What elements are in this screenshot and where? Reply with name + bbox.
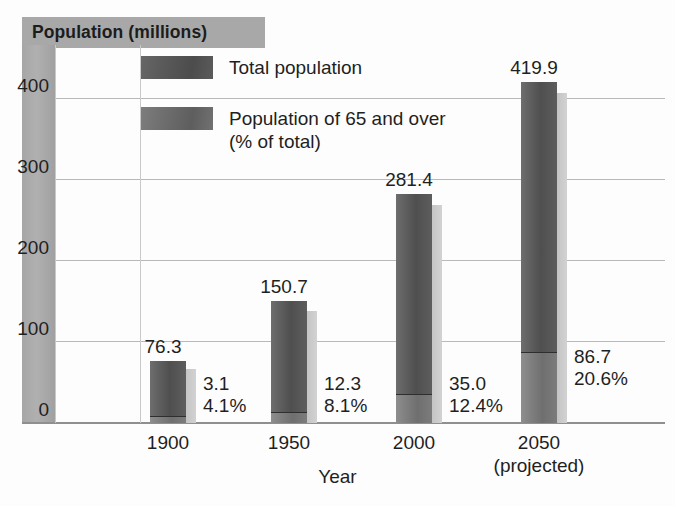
legend-label-elderly-line1: Population of 65 and over [229,108,446,129]
ytick-label-100: 100 [0,318,49,340]
plot-area: 400 300 200 100 0 76.3 3.1 4.1% 150.7 12… [55,45,665,423]
bar-shadow-1950 [307,311,317,423]
elderly-count-2050: 86.7 [574,346,611,367]
ytick-label-0: 0 [0,399,49,421]
bar-group-1900[interactable] [150,45,196,423]
elderly-count-1950: 12.3 [324,373,361,394]
xtick-label-1950: 1950 [229,432,349,455]
population-bar-chart: Population (millions) 400 300 200 100 0 … [0,0,675,506]
elderly-percent-1900: 4.1% [203,395,246,416]
bar-elderly-1950[interactable] [271,412,307,423]
x-axis-title: Year [0,466,675,488]
value-label-elderly-1900: 3.1 4.1% [203,373,246,418]
elderly-count-2000: 35.0 [449,373,486,394]
value-label-total-2000: 281.4 [374,169,444,191]
xtick-label-2000: 2000 [354,432,474,455]
bar-shadow-1900 [186,369,196,423]
bar-shadow-2050 [557,93,567,423]
chart-title: Population (millions) [32,22,207,43]
elderly-percent-1950: 8.1% [324,395,367,416]
ytick-label-400: 400 [0,75,49,97]
bar-group-2000[interactable] [396,45,442,423]
value-label-elderly-1950: 12.3 8.1% [324,373,367,418]
xtick-label-1900: 1900 [108,432,228,455]
value-label-total-2050: 419.9 [499,57,569,79]
bar-total-1900[interactable] [150,361,186,423]
value-label-elderly-2050: 86.7 20.6% [574,346,628,391]
value-label-elderly-2000: 35.0 12.4% [449,373,503,418]
legend-label-elderly-population: Population of 65 and over (% of total) [229,107,446,153]
legend-item-elderly-population[interactable]: Population of 65 and over (% of total) [141,107,446,153]
xtick-2000-year: 2000 [393,432,435,453]
chart-title-banner: Population (millions) [22,17,265,48]
axis-baseline [22,422,665,424]
xtick-1900-year: 1900 [147,432,189,453]
bar-total-1950[interactable] [271,301,307,423]
xtick-1950-year: 1950 [268,432,310,453]
y-axis-spine [22,45,55,424]
gridline-400 [55,98,665,99]
bar-total-2000[interactable] [396,194,432,423]
bar-shadow-2000 [432,205,442,423]
bar-elderly-2000[interactable] [396,394,432,423]
ytick-label-200: 200 [0,237,49,259]
legend-label-total-population: Total population [229,56,362,79]
elderly-percent-2000: 12.4% [449,395,503,416]
bar-elderly-2050[interactable] [521,352,557,423]
plot-inner-divider [140,45,141,423]
gridline-200 [55,260,665,261]
elderly-percent-2050: 20.6% [574,368,628,389]
total-population-swatch [141,56,213,79]
gridline-300 [55,179,665,180]
elderly-count-1900: 3.1 [203,373,229,394]
legend-item-total-population[interactable]: Total population [141,56,362,79]
y-axis-line [55,45,56,423]
xtick-2050-year: 2050 [518,432,560,453]
value-label-total-1900: 76.3 [128,336,198,358]
legend-label-elderly-line2: (% of total) [229,130,446,153]
bar-group-2050[interactable] [521,45,567,423]
bar-elderly-1900[interactable] [150,416,186,423]
ytick-label-300: 300 [0,156,49,178]
value-label-total-1950: 150.7 [249,276,319,298]
elderly-population-swatch [141,107,213,130]
bar-group-1950[interactable] [271,45,317,423]
